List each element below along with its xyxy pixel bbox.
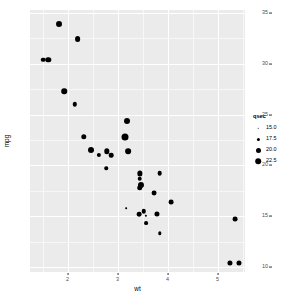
x-tick-label: 4 — [166, 277, 169, 282]
x-tick-label: 5 — [216, 277, 219, 282]
gridline-x-minor — [93, 10, 94, 272]
data-point — [72, 102, 76, 106]
data-point — [137, 212, 142, 217]
data-point — [122, 133, 129, 140]
x-tick-label: 2 — [66, 277, 69, 282]
data-point — [109, 153, 114, 158]
y-tick-mark — [269, 114, 272, 115]
data-point — [137, 176, 142, 181]
y-tick-mark — [269, 266, 272, 267]
data-point — [124, 118, 130, 124]
data-point — [104, 167, 108, 171]
legend-item: 15.0 — [252, 123, 293, 134]
legend-label: 17.5 — [266, 136, 277, 141]
legend: qsec 15.017.520.022.5 — [252, 114, 293, 167]
legend-item: 17.5 — [252, 134, 293, 145]
x-tick-mark — [117, 273, 118, 276]
data-point — [61, 88, 67, 94]
legend-dot — [257, 127, 259, 129]
data-point — [125, 207, 127, 209]
y-tick-mark — [269, 165, 272, 166]
data-point — [56, 21, 62, 27]
y-axis-label: mpg — [4, 135, 10, 147]
legend-dot — [256, 138, 259, 141]
legend-key-circle-icon — [253, 134, 264, 145]
legend-key-circle-icon — [253, 123, 264, 134]
legend-label: 20.0 — [266, 147, 277, 152]
data-point — [41, 57, 46, 62]
data-point — [157, 171, 162, 176]
y-tick-mark — [269, 63, 272, 64]
data-point — [158, 232, 161, 235]
gridline-x-major — [168, 10, 169, 272]
legend-dot — [256, 148, 261, 153]
y-tick-label: 10 — [262, 264, 268, 269]
legend-key-circle-icon — [253, 145, 264, 156]
y-tick-mark — [269, 13, 272, 14]
gridline-x-major — [218, 10, 219, 272]
data-point — [46, 57, 51, 62]
y-tick-label: 25 — [262, 112, 268, 117]
data-point — [227, 260, 232, 265]
legend-item: 20.0 — [252, 145, 293, 156]
x-tick-mark — [67, 273, 68, 276]
y-tick-label: 30 — [262, 61, 268, 66]
data-point — [236, 260, 241, 265]
data-point — [96, 153, 100, 157]
data-point — [137, 171, 142, 176]
gridline-x-minor — [243, 10, 244, 272]
plot-panel — [30, 10, 245, 272]
y-tick-label: 20 — [262, 163, 268, 168]
data-point — [169, 200, 174, 205]
gridline-x-minor — [143, 10, 144, 272]
gridline-y-minor — [30, 191, 245, 192]
gridline-y-major — [30, 64, 245, 65]
data-point — [141, 209, 146, 214]
gridline-y-major — [30, 115, 245, 116]
gridline-y-major — [30, 13, 245, 14]
data-point — [137, 185, 143, 191]
data-point — [152, 190, 157, 195]
gridline-y-minor — [30, 140, 245, 141]
legend-label: 15.0 — [266, 125, 277, 130]
y-tick-label: 35 — [262, 10, 268, 15]
scatter-plot-figure: mpg wt qsec 15.017.520.022.5 35302520151… — [0, 0, 293, 297]
x-tick-mark — [167, 273, 168, 276]
gridline-y-minor — [30, 38, 245, 39]
gridline-x-minor — [193, 10, 194, 272]
gridline-x-major — [118, 10, 119, 272]
data-point — [88, 147, 94, 153]
legend-item: 22.5 — [252, 156, 293, 167]
y-tick-mark — [269, 216, 272, 217]
legend-items: 15.017.520.022.5 — [252, 123, 293, 167]
gridline-y-minor — [30, 242, 245, 243]
data-point — [144, 221, 148, 225]
data-point — [232, 217, 237, 222]
x-tick-label: 3 — [116, 277, 119, 282]
y-tick-label: 15 — [262, 213, 268, 218]
legend-dot — [255, 158, 262, 165]
data-point — [75, 37, 81, 43]
gridline-x-major — [68, 10, 69, 272]
gridline-y-major — [30, 267, 245, 268]
x-axis-label: wt — [134, 286, 140, 292]
data-point — [125, 148, 131, 154]
gridline-y-major — [30, 165, 245, 166]
data-point — [81, 134, 86, 139]
gridline-x-minor — [43, 10, 44, 272]
legend-title: qsec — [253, 114, 293, 120]
x-tick-mark — [217, 273, 218, 276]
